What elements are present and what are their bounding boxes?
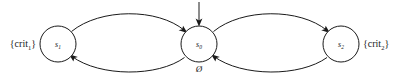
transition-s2-to-s0-path xyxy=(214,57,327,73)
transition-s0-to-s1-path xyxy=(72,57,185,73)
transition-s0-to-s2[interactable] xyxy=(214,14,331,33)
state-node-s0[interactable]: s0 xyxy=(181,26,217,62)
state-node-s1[interactable]: s1 xyxy=(40,26,76,62)
state-node-s2[interactable]: s2 xyxy=(323,26,359,62)
proposition-label-crit2: {crit2} xyxy=(363,38,389,51)
transition-s1-to-s0[interactable] xyxy=(72,14,188,33)
transition-s0-to-s1[interactable] xyxy=(69,54,185,72)
transition-s0-to-s2-path xyxy=(214,14,328,32)
initial-state-arrow xyxy=(196,2,203,27)
state-diagram-canvas: s1 s0 s2 {crit1} Ø {crit2} xyxy=(0,0,394,80)
proposition-label-crit1: {crit1} xyxy=(10,38,36,51)
state-diagram-svg: s1 s0 s2 {crit1} Ø {crit2} xyxy=(0,0,394,80)
proposition-label-emptyset: Ø xyxy=(195,64,203,74)
transition-s2-to-s0[interactable] xyxy=(211,54,327,72)
transition-s1-to-s0-path xyxy=(72,14,185,32)
